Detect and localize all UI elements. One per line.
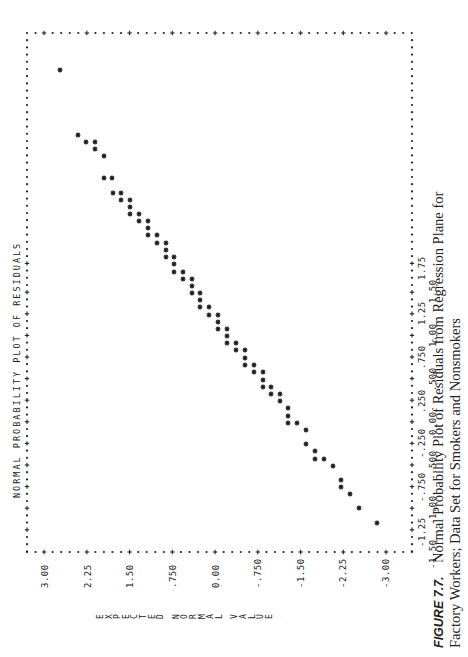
data-point	[261, 370, 266, 375]
data-point	[111, 191, 116, 196]
x-tick-label: 1.25	[417, 301, 427, 325]
y-tick-label: 3.00	[40, 564, 50, 588]
y-tick-label: -2.25	[338, 558, 348, 588]
plot-title: NORMAL PROBABILITY PLOT OF RESIDUALS	[12, 242, 22, 498]
data-point	[234, 341, 239, 346]
data-point	[207, 313, 212, 318]
data-point	[216, 320, 221, 325]
data-point	[339, 485, 344, 490]
data-point	[348, 492, 353, 497]
y-axis-title: EXPECTEDNORMALVALUE	[96, 612, 274, 619]
data-point	[375, 521, 380, 526]
data-point	[190, 291, 195, 296]
x-tick-label: -1.25	[417, 517, 427, 547]
data-point	[181, 270, 186, 275]
y-tick-label: -.750	[253, 558, 263, 588]
data-point	[225, 334, 230, 339]
expected-normal-tick-labels: 3.002.251.50.7500.00-.750-1.50-2.25-3.00	[40, 558, 391, 588]
data-point	[252, 363, 257, 368]
data-point	[198, 305, 203, 310]
data-point	[216, 327, 221, 332]
data-point	[102, 154, 107, 159]
data-point	[269, 392, 274, 397]
y-axis-title-char: L	[215, 612, 224, 619]
data-point	[313, 449, 318, 454]
data-point	[331, 464, 336, 469]
data-point	[128, 205, 133, 210]
data-point	[190, 277, 195, 282]
data-point	[339, 478, 344, 483]
data-point	[119, 198, 124, 203]
data-point	[172, 262, 177, 267]
data-point	[243, 363, 248, 368]
data-point	[207, 305, 212, 310]
y-tick-label: 2.25	[83, 564, 93, 588]
data-point	[198, 291, 203, 296]
data-points	[58, 68, 380, 526]
data-point	[278, 392, 283, 397]
data-point	[243, 348, 248, 353]
data-point	[110, 176, 115, 181]
data-point	[146, 233, 151, 238]
data-point	[164, 248, 169, 253]
data-point	[155, 233, 160, 238]
data-point	[295, 421, 300, 426]
x-tick-label: .750	[417, 345, 427, 369]
data-point	[313, 457, 318, 462]
data-point	[269, 385, 274, 390]
data-point	[225, 327, 230, 332]
data-point	[76, 133, 81, 138]
data-point	[261, 378, 266, 383]
data-point	[286, 421, 291, 426]
data-point	[172, 255, 177, 260]
data-point	[304, 428, 309, 433]
data-point	[164, 241, 169, 246]
data-point	[155, 241, 160, 246]
normal-probability-plot: 3.002.251.50.7500.00-.750-1.50-2.25-3.00…	[0, 0, 468, 657]
data-point	[128, 198, 133, 203]
data-point	[93, 140, 98, 145]
y-axis-title-char: E	[265, 612, 274, 619]
data-point	[261, 385, 266, 390]
data-point	[128, 212, 133, 217]
data-point	[84, 140, 89, 145]
y-tick-label: -1.50	[296, 558, 306, 588]
x-tick-label: .250	[417, 389, 427, 413]
data-point	[137, 212, 142, 217]
x-tick-label: 1.75	[417, 256, 427, 280]
y-tick-label: .750	[168, 564, 178, 588]
caption-line-2: Factory Workers; Data Set for Smokers an…	[447, 318, 463, 648]
data-point	[102, 176, 107, 181]
data-point	[216, 313, 221, 318]
data-point	[137, 219, 142, 224]
data-point	[225, 341, 230, 346]
y-axis-title-char: D	[156, 612, 165, 619]
data-point	[119, 191, 124, 196]
data-point	[252, 370, 257, 375]
data-point	[190, 284, 195, 289]
data-point	[146, 219, 151, 224]
y-tick-label: 0.00	[211, 564, 221, 588]
data-point	[58, 68, 63, 73]
x-tick-label: -.250	[417, 428, 427, 458]
data-point	[181, 277, 186, 282]
data-point	[322, 457, 327, 462]
figure-page: 3.002.251.50.7500.00-.750-1.50-2.25-3.00…	[0, 0, 468, 657]
data-point	[234, 348, 239, 353]
data-point	[243, 356, 248, 361]
y-tick-label: -3.00	[381, 558, 391, 588]
data-point	[357, 506, 362, 511]
plot-frame	[25, 31, 414, 554]
data-point	[198, 298, 203, 303]
data-point	[286, 406, 291, 411]
caption-line-1: Normal Probability Plot of Residuals fro…	[430, 192, 446, 563]
data-point	[304, 442, 309, 447]
data-point	[146, 226, 151, 231]
data-point	[164, 255, 169, 260]
y-tick-label: 1.50	[125, 564, 135, 588]
data-point	[93, 147, 98, 152]
data-point	[172, 270, 177, 275]
data-point	[286, 414, 291, 419]
figure-label: FIGURE 7.7.	[432, 576, 446, 648]
data-point	[278, 399, 283, 404]
